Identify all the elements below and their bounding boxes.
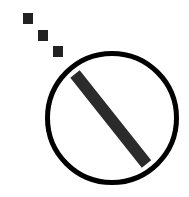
prohibited-icon [0,0,189,197]
dot-2 [38,30,48,41]
dot-1 [23,13,33,24]
icon-canvas [0,0,189,197]
dot-3 [53,46,63,57]
